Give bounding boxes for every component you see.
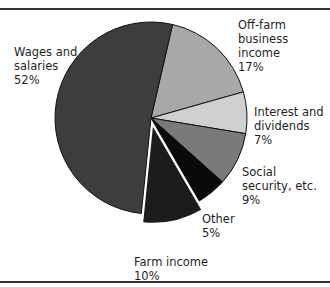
- label-farm-income: Farm income 10%: [134, 255, 208, 283]
- bottom-rule: [0, 281, 330, 283]
- label-off-farm-business-income: Off-farm business income 17%: [238, 18, 288, 74]
- label-social-security: Social security, etc. 9%: [242, 165, 317, 207]
- label-interest-dividends: Interest and dividends 7%: [254, 105, 324, 147]
- label-wages-salaries: Wages and salaries 52%: [14, 45, 77, 87]
- label-other: Other 5%: [202, 212, 235, 240]
